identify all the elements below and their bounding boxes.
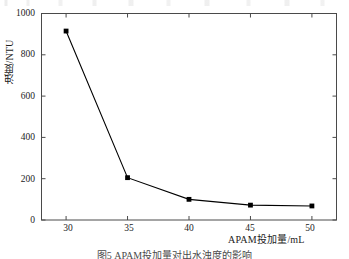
axes-frame — [42, 14, 337, 221]
y-axis-ticks — [42, 14, 337, 221]
data-line-series — [66, 31, 312, 206]
data-point-markers — [64, 29, 315, 209]
figure-container: 浊度/NTU APAM投加量/mL 1000 800 600 400 200 0… — [0, 0, 349, 259]
x-axis-ticks — [66, 14, 312, 221]
figure-caption: 图5 APAM投加量对出水浊度的影响 — [0, 250, 349, 259]
plot-area — [0, 0, 349, 259]
